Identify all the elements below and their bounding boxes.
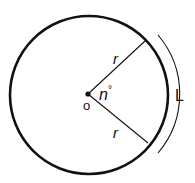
arc-length-label: L [175,87,184,104]
circle-diagram: r r n ° o L [0,0,195,183]
degree-mark: ° [108,84,112,95]
center-point [85,91,90,96]
radius-label-upper: r [113,50,119,67]
radius-line-upper [88,41,145,94]
radius-line-lower [88,94,148,143]
angle-label: n [99,86,108,103]
radius-label-lower: r [113,124,119,141]
center-label: o [83,98,90,113]
